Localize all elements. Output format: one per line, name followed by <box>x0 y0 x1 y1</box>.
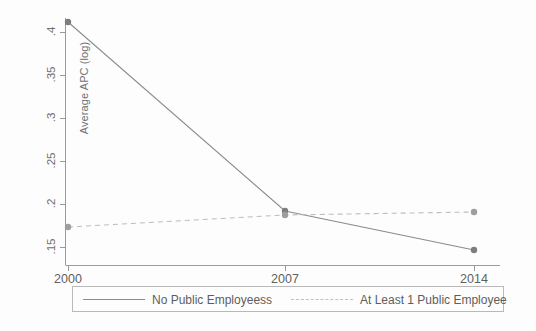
legend: No Public Employeess At Least 1 Public E… <box>72 286 504 312</box>
legend-label-1: At Least 1 Public Employee <box>360 293 507 307</box>
legend-swatch-dotted-icon <box>291 299 353 301</box>
plot-area <box>0 0 536 331</box>
data-point <box>471 209 477 215</box>
legend-label-0: No Public Employeess <box>152 293 272 307</box>
data-point <box>471 247 477 253</box>
series-line-no-public-employeess <box>68 22 474 250</box>
data-point <box>65 19 71 25</box>
legend-item-at-least-1-public-employee[interactable]: At Least 1 Public Employee <box>291 291 507 309</box>
y-tick-marks <box>60 33 66 248</box>
chart-figure: Average APC (log) .4 .35 .3 .25 .2 .15 2… <box>0 0 536 331</box>
data-point <box>65 224 71 230</box>
x-tick-marks <box>69 266 475 272</box>
legend-item-no-public-employeess[interactable]: No Public Employeess <box>83 291 272 309</box>
series-markers-at-least-1-public-employee <box>65 209 477 230</box>
legend-swatch-solid-icon <box>83 299 145 301</box>
series-line-at-least-1-public-employee <box>68 212 474 227</box>
data-point <box>282 212 288 218</box>
series-markers-no-public-employeess <box>65 19 477 253</box>
